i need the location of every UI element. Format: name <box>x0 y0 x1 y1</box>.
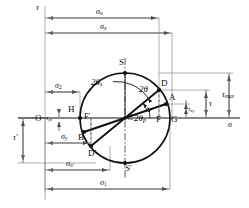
dim-label-sigma-n-prime: σn' <box>66 160 74 168</box>
point-label-S: S <box>119 58 124 67</box>
axis-label-tau: τ <box>36 4 39 12</box>
point-dot-S <box>123 71 127 75</box>
axis-label-sigma: σ <box>228 121 232 129</box>
dim-label-sigma-n: σn <box>96 8 103 16</box>
dim-label-sigma-y: σy <box>61 133 67 141</box>
point-label-C: C <box>127 113 133 122</box>
point-label-F: F <box>156 115 161 124</box>
dim-label-tau-xy: τxy <box>188 106 194 113</box>
dim-label-tau: τ <box>209 100 212 108</box>
dim-label-tau-yx: τyx <box>46 115 52 122</box>
point-dot-A <box>164 102 168 106</box>
point-label-D: D <box>161 79 168 88</box>
dim-label-sigma-2: σ2 <box>55 82 62 90</box>
angle-label-two-theta-s: 2θs <box>91 78 102 87</box>
point-label-S-prime: 'S' <box>124 165 131 173</box>
point-label-D-prime: D' <box>88 149 96 158</box>
point-label-F-prime: F' <box>84 113 90 121</box>
angle-label-two-theta: 2θ <box>139 85 148 94</box>
point-label-B: B <box>78 133 84 142</box>
point-label-G: G <box>171 115 178 124</box>
dim-label-sigma-1: σ1 <box>100 179 107 187</box>
dim-label-tau-max: τmax <box>222 91 234 99</box>
angle-label-two-theta-p: 2θp <box>134 114 146 123</box>
arc-two-theta <box>143 103 147 111</box>
point-dot-H <box>78 116 82 120</box>
point-dot-D <box>157 88 161 92</box>
dim-label-tau-prime: τ' <box>13 134 18 142</box>
dim-label-sigma-x: σx <box>100 23 106 31</box>
mohr-circle-figure: τ σ O σn σx σ2 σy σn' σ1 τ' τyx τxy τ τm… <box>0 0 249 208</box>
point-label-O: O <box>35 114 42 123</box>
top-dimension-lines <box>45 18 172 33</box>
point-label-H: H <box>68 105 75 114</box>
point-label-A: A <box>169 93 176 102</box>
